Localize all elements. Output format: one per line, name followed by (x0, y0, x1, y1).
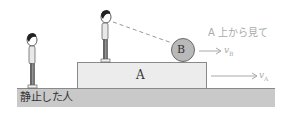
observer-on-a-icon (101, 10, 111, 62)
velocity-a-arrow-icon (211, 73, 257, 79)
velocity-b-arrow-icon (199, 48, 221, 54)
diagram-drawing (0, 0, 292, 117)
line-of-sight (113, 22, 172, 43)
stationary-person-icon (27, 33, 37, 88)
